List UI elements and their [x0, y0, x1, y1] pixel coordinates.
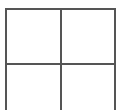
grid-cell-top-right — [62, 10, 115, 64]
grid-middle-vertical-line — [60, 8, 62, 110]
grid-left-border — [5, 8, 7, 110]
two-by-two-grid — [5, 8, 116, 110]
grid-cell-bottom-right — [62, 66, 115, 110]
grid-cell-top-left — [7, 10, 60, 64]
grid-cell-bottom-left — [7, 66, 60, 110]
grid-right-border — [114, 8, 116, 110]
